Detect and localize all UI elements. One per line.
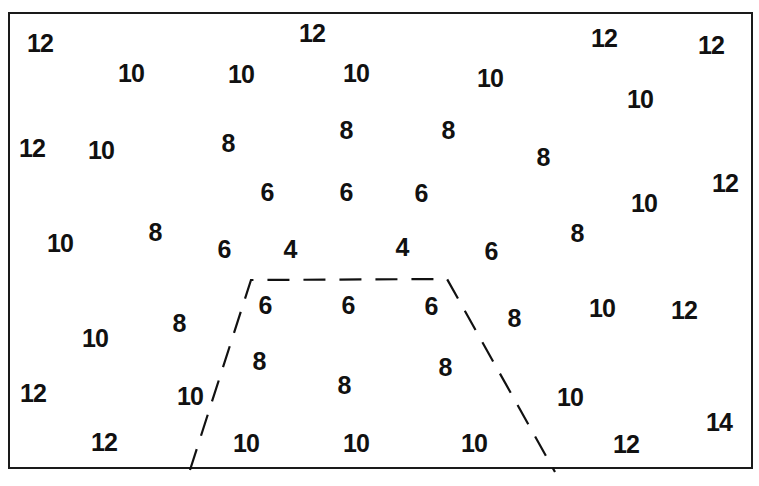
value-label: 8 (338, 373, 351, 398)
value-label: 8 (340, 118, 353, 143)
value-label: 10 (228, 62, 254, 87)
value-label: 6 (261, 180, 274, 205)
value-label: 6 (415, 181, 428, 206)
value-label: 12 (591, 26, 617, 51)
value-label: 12 (671, 298, 697, 323)
value-label: 6 (425, 294, 438, 319)
value-label: 12 (613, 432, 639, 457)
value-label: 10 (631, 191, 657, 216)
value-label: 12 (698, 33, 724, 58)
value-label: 8 (222, 131, 235, 156)
value-label: 8 (571, 221, 584, 246)
value-label: 14 (706, 410, 732, 435)
value-label: 10 (557, 385, 583, 410)
value-label: 6 (342, 293, 355, 318)
value-label: 6 (485, 239, 498, 264)
value-label: 6 (218, 237, 231, 262)
value-label: 10 (343, 431, 369, 456)
value-label: 10 (627, 87, 653, 112)
value-label: 8 (173, 311, 186, 336)
value-label: 12 (19, 136, 45, 161)
value-label: 4 (396, 235, 409, 260)
value-label: 8 (508, 306, 521, 331)
value-label: 8 (149, 220, 162, 245)
value-label: 8 (442, 118, 455, 143)
value-label: 8 (253, 349, 266, 374)
value-label: 10 (461, 431, 487, 456)
value-label: 6 (259, 293, 272, 318)
value-label: 10 (343, 61, 369, 86)
value-label: 4 (284, 237, 297, 262)
contour-diagram: 1212121210101010101210888866610121086446… (0, 0, 759, 486)
value-label: 10 (477, 66, 503, 91)
value-label: 10 (233, 431, 259, 456)
value-label: 12 (91, 430, 117, 455)
value-label: 8 (537, 145, 550, 170)
value-label: 10 (82, 326, 108, 351)
value-label: 10 (88, 138, 114, 163)
value-label: 8 (439, 355, 452, 380)
value-label: 10 (47, 231, 73, 256)
value-label: 12 (20, 381, 46, 406)
dashed-trapezoid-boundary (0, 0, 759, 486)
value-label: 12 (712, 171, 738, 196)
value-label: 10 (177, 384, 203, 409)
value-label: 12 (27, 31, 53, 56)
value-label: 10 (589, 296, 615, 321)
value-label: 12 (299, 21, 325, 46)
value-label: 6 (340, 180, 353, 205)
value-label: 10 (118, 61, 144, 86)
